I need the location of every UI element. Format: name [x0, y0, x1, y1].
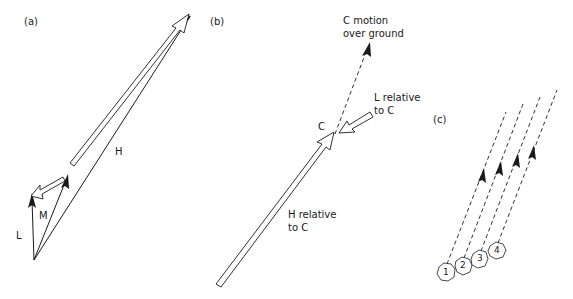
- stone-2-label: 2: [460, 259, 466, 271]
- track-arrowhead-3-icon: [512, 153, 520, 168]
- panel-b-label: (b): [210, 16, 224, 28]
- h-relative-label-line1: H relative: [288, 208, 336, 221]
- c-motion-label-line1: C motion: [343, 14, 388, 27]
- c-motion-arrowhead-icon: [362, 42, 371, 57]
- panel-a-label: (a): [24, 16, 38, 28]
- diagram-canvas: [0, 0, 573, 299]
- track-line-2: [464, 104, 523, 258]
- point-c-label: C: [318, 120, 325, 133]
- panel-c-label: (c): [433, 114, 446, 126]
- vector-h: [34, 16, 190, 260]
- panel-b-graphics: [216, 42, 373, 287]
- vector-h-label: H: [115, 146, 123, 158]
- track-line-4: [498, 90, 557, 243]
- panel-a-graphics: [28, 14, 190, 260]
- l-relative-label-line2: to C: [374, 104, 394, 117]
- stone-3-label: 3: [477, 252, 483, 264]
- stone-1-label: 1: [443, 266, 449, 278]
- h-relative-label-line2: to C: [288, 221, 308, 234]
- track-arrowhead-2-icon: [495, 161, 503, 176]
- vector-l: [32, 200, 34, 260]
- stone-4-label: 4: [494, 244, 500, 256]
- hollow-arrow-l-relative-c: [339, 112, 373, 133]
- track-line-1: [447, 112, 506, 264]
- vector-m-label: M: [39, 210, 48, 222]
- vector-l-label: L: [16, 230, 22, 242]
- c-motion-label-line2: over ground: [343, 27, 404, 40]
- track-arrowhead-1-icon: [478, 168, 486, 183]
- hollow-arrow-h-relative: [70, 14, 189, 166]
- l-relative-label-line1: L relative: [374, 91, 420, 104]
- track-line-3: [481, 97, 540, 251]
- track-arrowhead-4-icon: [528, 145, 536, 160]
